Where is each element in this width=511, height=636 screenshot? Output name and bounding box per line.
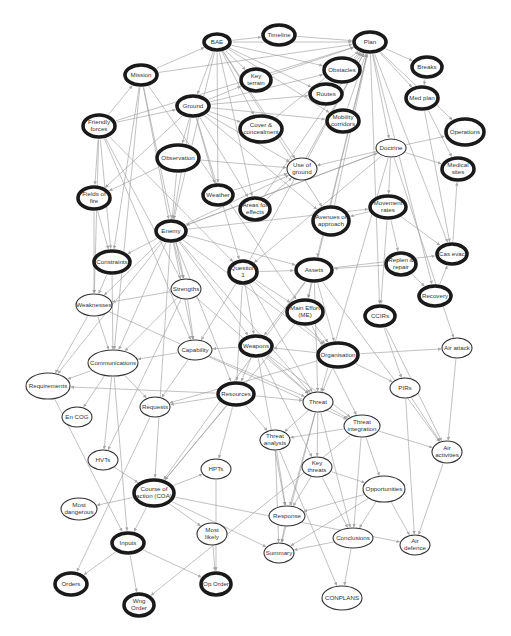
edge-plan-to-doctrine xyxy=(373,54,390,138)
edge-cas-evac-to-medical-sites xyxy=(453,183,457,242)
nodes-layer: BAETimelinePlanMissionKeyterrainObstacle… xyxy=(26,25,484,616)
node-threat-analysis: Threatanalysis xyxy=(260,430,290,450)
edge-threat-integration-to-opportunities xyxy=(366,438,379,476)
edge-prs-to-air-activities xyxy=(412,398,440,441)
node-mobility-corridors: Mobilitycorridors xyxy=(327,110,359,132)
edge-key-threats-to-opportunities xyxy=(331,472,364,483)
edge-communications-to-requests xyxy=(125,375,147,397)
edge-plan-to-breaks xyxy=(385,49,412,61)
node-timeline: Timeline xyxy=(263,25,295,45)
edge-constraints-to-weaknesses xyxy=(99,275,107,293)
edge-conclusions-to-summary xyxy=(294,542,333,550)
edge-communications-to-hvts xyxy=(104,377,112,449)
edge-capability-to-communications xyxy=(138,353,178,359)
node-threat-integration: Threatintegration xyxy=(344,415,380,437)
node-label: action (COA) xyxy=(136,492,172,499)
node-label: HVTs xyxy=(96,456,111,463)
edge-weather-to-use-of-ground xyxy=(234,174,287,190)
node-conplans: CONPLANS xyxy=(322,586,362,610)
node-label: Plan xyxy=(364,38,377,45)
node-communications: Communications xyxy=(88,350,138,376)
edge-areas-for-effects-to-use-of-ground xyxy=(267,178,292,199)
edge-enemy-to-resources xyxy=(176,243,231,381)
node-inputs: Inputs xyxy=(112,533,144,553)
node-course-of-action: Course ofaction (COA) xyxy=(134,480,174,506)
edge-strengths-to-capability xyxy=(188,300,194,339)
node-label: Operations xyxy=(450,128,480,135)
node-label: Requirements xyxy=(29,382,68,389)
node-enemy: Enemy xyxy=(156,221,186,241)
node-bae: BAE xyxy=(204,34,230,50)
edge-communications-to-en-cog xyxy=(84,376,105,407)
node-weapons: Weapons xyxy=(240,336,272,356)
node-label: Use of xyxy=(293,161,311,168)
edge-doctrine-to-operations xyxy=(406,136,444,144)
node-label: sites xyxy=(452,168,465,175)
node-label: HPTs xyxy=(209,465,224,472)
concept-network-diagram: BAETimelinePlanMissionKeyterrainObstacle… xyxy=(0,0,511,636)
node-label: Cover & xyxy=(250,121,273,128)
node-label: Communications xyxy=(90,359,136,366)
edge-resources-to-hpts xyxy=(219,407,233,458)
node-label: Movement xyxy=(374,199,403,206)
node-label: integration xyxy=(348,425,377,432)
edge-threat-analysis-to-summary xyxy=(275,451,278,542)
node-label: BAE xyxy=(211,38,223,45)
node-label: (ME) xyxy=(298,311,311,318)
node-air-activities: Airactivities xyxy=(432,441,462,463)
edge-question-1-to-assets xyxy=(260,271,294,272)
node-conclusions: Conclusions xyxy=(333,528,373,548)
node-label: Op Order xyxy=(203,580,229,587)
edge-bae-to-ground xyxy=(198,52,214,94)
node-label: Key xyxy=(251,72,263,79)
node-use-of-ground: Use ofground xyxy=(287,158,317,180)
node-constraints: Constraints xyxy=(94,251,130,273)
node-areas-for-effects: Areas foreffects xyxy=(240,198,270,220)
edge-recovery-to-cas-evac xyxy=(440,266,447,284)
edge-prs-to-air-defence xyxy=(406,399,415,534)
node-label: defence xyxy=(404,544,427,551)
node-label: activities xyxy=(435,451,459,458)
node-organisation: Organisation xyxy=(318,343,358,367)
node-label: Mobility xyxy=(333,113,355,120)
node-label: Replen & xyxy=(388,256,414,263)
node-med-plan: Med plan xyxy=(406,87,438,109)
edge-assets-to-main-effort xyxy=(308,283,311,297)
node-label: Wng xyxy=(133,597,146,604)
edge-resources-to-threat xyxy=(256,396,302,401)
edge-weaknesses-to-communications xyxy=(98,317,109,350)
edge-doctrine-to-movement-rates xyxy=(389,158,391,194)
node-label: threats xyxy=(308,466,327,473)
node-label: Constraints xyxy=(96,258,127,265)
node-requests: Requests xyxy=(140,397,170,417)
node-obstacles: Obstacles xyxy=(324,58,360,82)
node-main-effort: Main Effort(ME) xyxy=(287,300,323,324)
node-label: Avenues of xyxy=(316,213,347,220)
node-plan: Plan xyxy=(354,32,386,52)
node-label: Strengths xyxy=(173,285,199,292)
edge-course-of-action-to-hpts xyxy=(174,474,203,485)
edge-timeline-to-plan xyxy=(297,36,351,40)
node-label: Observation xyxy=(161,154,195,161)
node-label: analysis xyxy=(264,439,286,446)
edge-opportunities-to-air-defence xyxy=(391,502,409,535)
edge-replen-repair-to-recovery xyxy=(412,274,424,286)
node-opportunities: Opportunities xyxy=(363,476,405,502)
node-orders: Orders xyxy=(55,573,87,595)
node-label: Medical xyxy=(447,161,468,168)
node-recovery: Recovery xyxy=(419,286,451,306)
node-label: Question xyxy=(231,264,256,271)
node-label: Mission xyxy=(131,71,153,78)
node-label: Inputs xyxy=(120,539,137,546)
node-response: Response xyxy=(269,506,305,526)
edge-bae-to-weather xyxy=(217,53,218,183)
node-label: Doctrine xyxy=(379,144,403,151)
edge-question-1-to-weapons xyxy=(245,285,254,333)
edge-observation-to-use-of-ground xyxy=(201,160,286,168)
node-label: Ground xyxy=(183,102,204,109)
edge-weapons-to-capability xyxy=(213,347,238,349)
edge-weaknesses-to-requirements xyxy=(56,316,88,373)
node-question-1: Question1 xyxy=(229,261,257,283)
node-air-defence: Airdefence xyxy=(400,535,430,555)
node-label: terrain xyxy=(247,79,265,86)
